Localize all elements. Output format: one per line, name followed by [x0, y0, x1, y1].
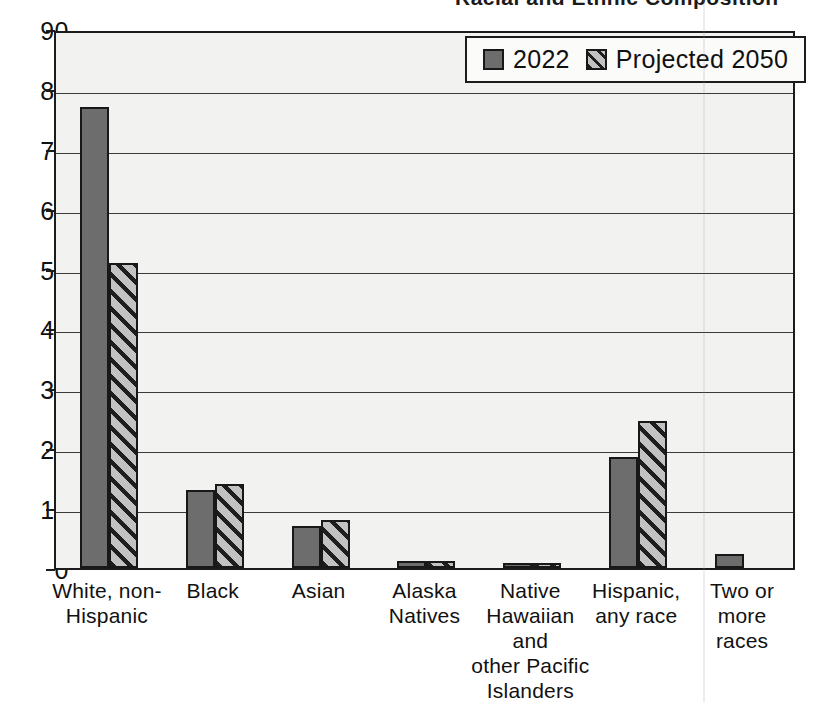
bar-series1 — [292, 526, 321, 568]
bar-series1 — [609, 457, 638, 568]
bar-group — [479, 33, 585, 568]
legend-label: Projected 2050 — [616, 45, 788, 74]
bar-series2 — [426, 561, 455, 568]
bar-series2 — [638, 421, 667, 568]
legend-swatch-solid — [483, 49, 504, 70]
bar-group — [691, 33, 797, 568]
bar-group — [56, 33, 162, 568]
x-axis-label-line: races — [677, 628, 807, 653]
bar-series1 — [80, 107, 109, 568]
bar-chart: 9080706050403020100 White, non-HispanicB… — [0, 0, 817, 702]
x-axis-label-line: and — [465, 628, 595, 653]
bar-group — [585, 33, 691, 568]
legend-label: 2022 — [513, 45, 570, 74]
x-axis-label-line: Islanders — [465, 678, 595, 702]
bar-series1 — [715, 554, 744, 568]
bar-series2 — [109, 263, 138, 568]
bar-group — [162, 33, 268, 568]
bar-group — [374, 33, 480, 568]
bar-series2 — [532, 563, 561, 568]
legend: 2022Projected 2050 — [465, 36, 806, 83]
bar-series1 — [503, 563, 532, 568]
legend-item: Projected 2050 — [586, 45, 788, 74]
x-axis-label-line: more — [677, 603, 807, 628]
bar-series1 — [397, 561, 426, 568]
legend-swatch-hatch — [586, 49, 607, 70]
x-axis-label: Two ormoreraces — [677, 578, 807, 653]
bar-series2 — [321, 520, 350, 568]
x-axis-label-line: Two or — [677, 578, 807, 603]
plot-area — [54, 31, 795, 570]
legend-item: 2022 — [483, 45, 570, 74]
x-axis-label-line: Hispanic — [42, 603, 172, 628]
bar-series2 — [215, 484, 244, 568]
bar-series1 — [186, 490, 215, 568]
x-axis-label-line: other Pacific — [465, 653, 595, 678]
bar-group — [268, 33, 374, 568]
